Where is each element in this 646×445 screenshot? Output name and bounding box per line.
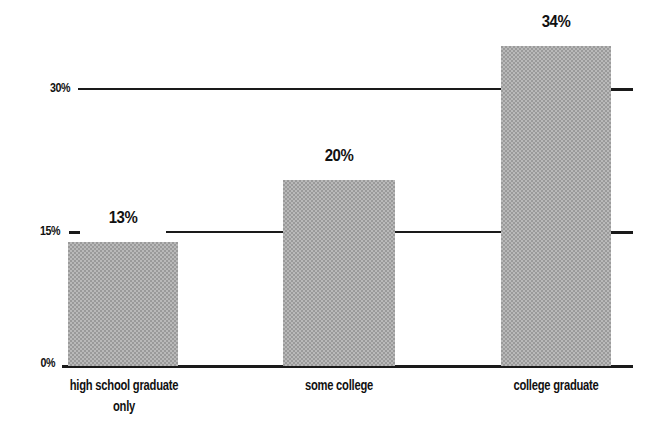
bar-high-school-graduate-only (68, 242, 178, 366)
gridline-tick-right-15 (611, 231, 633, 234)
y-axis-label-15: 15% (11, 223, 60, 238)
category-label-line-2: only (47, 396, 201, 417)
category-label-high-school-graduate-only: high school graduate only (47, 375, 201, 417)
bar-value-label-college-graduate: 34% (508, 12, 605, 32)
gridline-tick-left-15 (69, 231, 80, 234)
bar-college-graduate (501, 46, 611, 366)
y-axis-label-30: 30% (13, 80, 70, 95)
category-label-some-college: some college (262, 375, 416, 396)
y-axis-label-0: 0% (10, 355, 55, 370)
category-label-line-1: some college (262, 375, 416, 396)
category-label-line-1: college graduate (479, 375, 633, 396)
category-label-line-1: high school graduate (47, 375, 201, 396)
bar-some-college (283, 180, 395, 366)
gridline-tick-right-30 (611, 88, 633, 91)
bar-chart: 30% 15% 0% 13% 20% 34% high school gradu… (0, 0, 646, 445)
category-label-college-graduate: college graduate (479, 375, 633, 396)
bar-value-label-high-school-graduate-only: 13% (75, 208, 172, 228)
bar-value-label-some-college: 20% (290, 146, 389, 166)
plot-area: 30% 15% 0% 13% 20% 34% high school gradu… (0, 0, 646, 445)
